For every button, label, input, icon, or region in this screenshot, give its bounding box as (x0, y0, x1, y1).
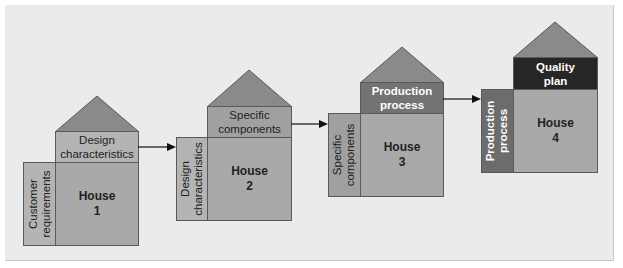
house-1-side-label: Customerrequirements (23, 162, 56, 246)
house-2-number: 2 (246, 179, 253, 194)
house-2-top-label: Specificcomponents (207, 106, 292, 138)
house-3-body: House 3 (360, 113, 444, 197)
house-4-roof (513, 21, 598, 58)
house-2-roof (207, 69, 292, 107)
arrow-1-to-2 (138, 142, 178, 152)
house-1-roof (55, 95, 139, 132)
house-4-body: House 4 (513, 89, 598, 173)
house-4-name: House (537, 116, 574, 131)
house-4-top-label: Qualityplan (513, 57, 598, 90)
house-3-side-label: Specificcomponents (328, 113, 361, 197)
house-3-top-label: Productionprocess (360, 82, 444, 114)
house-3-number: 3 (399, 155, 406, 170)
house-3-name: House (384, 140, 421, 155)
house-2-side-label: Designcharacteristics (176, 137, 208, 221)
house-4-number: 4 (552, 131, 559, 146)
house-1-top-label: Designcharacteristics (55, 131, 139, 163)
house-4-side-label: Productionprocess (481, 89, 514, 173)
house-1-body: House 1 (55, 162, 139, 246)
arrow-2-to-3 (291, 119, 331, 129)
house-1-name: House (79, 189, 116, 204)
house-1-number: 1 (94, 204, 101, 219)
house-2-body: House 2 (207, 137, 292, 221)
house-3-roof (360, 46, 444, 83)
arrow-3-to-4 (443, 94, 483, 104)
house-2-name: House (231, 164, 268, 179)
